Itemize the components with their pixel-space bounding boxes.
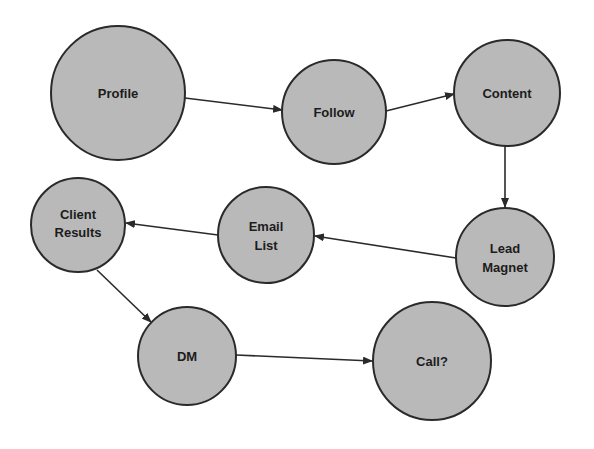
node-label: Content	[482, 86, 532, 101]
arrow-icon	[185, 98, 282, 110]
funnel-diagram: Profile Follow Content Lead Magnet Email…	[0, 0, 594, 449]
arrow-icon	[386, 94, 454, 111]
node-client-results: Client Results	[31, 178, 125, 272]
node-label: Call?	[416, 354, 448, 369]
node-lead-magnet: Lead Magnet	[456, 208, 554, 306]
node-label-line-2: Magnet	[482, 260, 528, 275]
arrow-icon	[126, 223, 218, 235]
node-label-line-2: Results	[55, 225, 102, 240]
arrow-icon	[315, 236, 456, 258]
edge-lead-magnet-to-email-list	[315, 236, 456, 258]
node-dm: DM	[138, 307, 236, 405]
node-label-line-1: Lead	[490, 241, 520, 256]
node-content: Content	[454, 40, 560, 146]
node-call: Call?	[373, 302, 491, 420]
arrow-icon	[97, 270, 151, 322]
node-profile: Profile	[51, 26, 185, 160]
edge-email-list-to-client-results	[126, 223, 218, 235]
node-label: Follow	[313, 105, 355, 120]
node-label-line-2: List	[254, 238, 278, 253]
edge-dm-to-call	[236, 355, 372, 361]
node-label-line-1: Client	[60, 207, 97, 222]
node-label: Profile	[98, 86, 138, 101]
node-email-list: Email List	[218, 187, 314, 283]
node-follow: Follow	[282, 60, 386, 164]
edge-client-results-to-dm	[97, 270, 151, 322]
arrow-icon	[236, 355, 372, 361]
edge-follow-to-content	[386, 94, 454, 111]
edge-profile-to-follow	[185, 98, 282, 110]
node-label: DM	[177, 349, 197, 364]
node-label-line-1: Email	[249, 219, 284, 234]
